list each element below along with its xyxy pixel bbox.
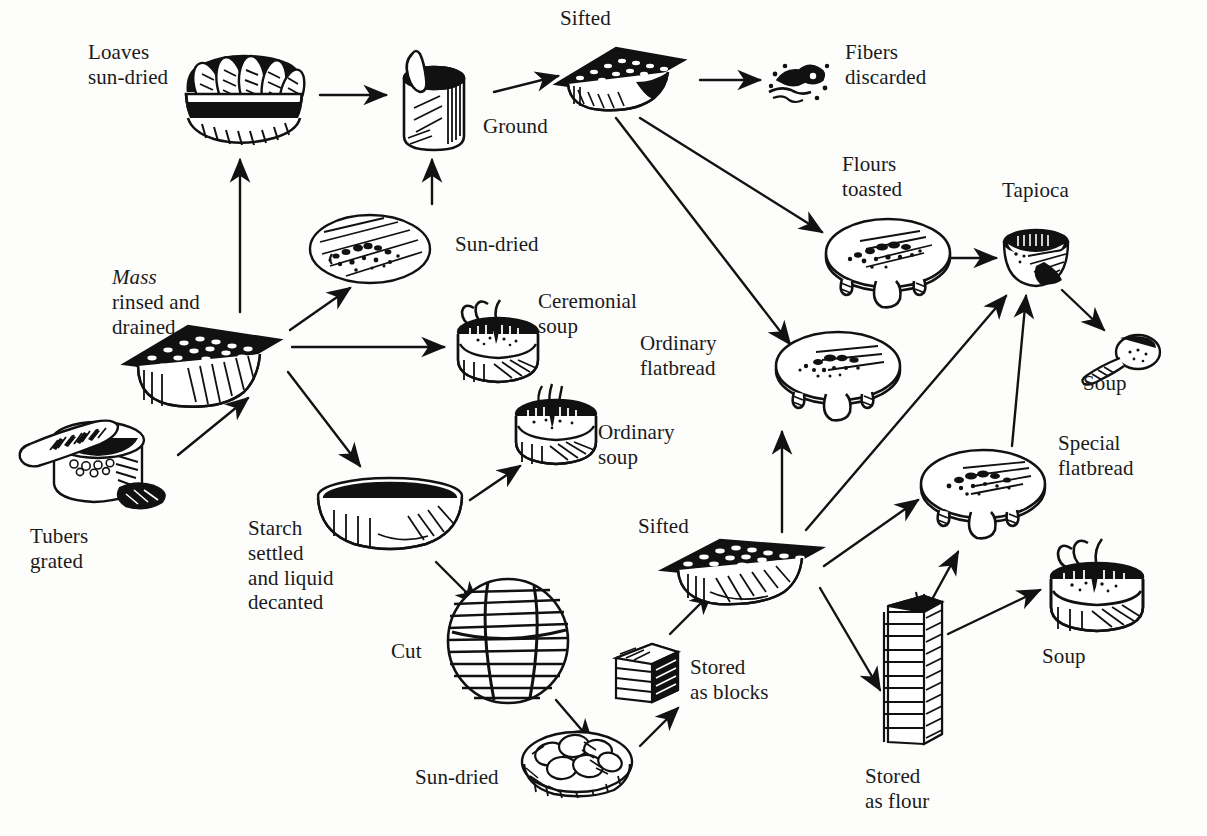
label-flours-toasted: Flours toasted <box>842 152 902 202</box>
label-stored-as-flour: Stored as flour <box>865 764 929 814</box>
label-tapioca: Tapioca <box>1002 178 1069 203</box>
ordinary-soup-pot-icon <box>508 384 604 474</box>
label-fibers-discarded: Fibers discarded <box>845 40 926 90</box>
basket-of-loaves-icon <box>178 30 308 148</box>
ceremonial-soup-pot-icon <box>450 298 546 392</box>
mortar-and-pestle-icon <box>390 48 482 156</box>
discarded-fibers-icon <box>765 52 835 110</box>
arrow-mortar-pestle-to-sifter-top <box>494 76 558 92</box>
tapioca-bowl-icon <box>1000 222 1072 292</box>
soup-pot-icon <box>1042 535 1152 639</box>
starch-settling-basin-icon <box>312 474 468 560</box>
label-special-flatbread: Special flatbread <box>1058 431 1134 481</box>
label-emphasis: Mass <box>112 265 157 289</box>
cut-starch-ball-icon <box>444 576 572 706</box>
label-tubers-grated: Tubers grated <box>30 524 88 574</box>
arrow-sifter-lower-to-special-griddle <box>824 500 918 566</box>
label-sun-dried-lower: Sun-dried <box>415 765 499 790</box>
arrow-flour-column-to-soup-pot-right <box>948 590 1040 634</box>
stored-blocks-icon <box>610 642 684 706</box>
label-stored-as-blocks: Stored as blocks <box>690 655 768 705</box>
sifter-tray-icon <box>658 530 826 610</box>
special-flatbread-griddle-icon <box>915 448 1051 544</box>
arrow-sifter-lower-to-flour-column <box>820 588 880 690</box>
label-mass-rinsed: Mass rinsed and drained <box>112 265 200 339</box>
label-soup-pot: Soup <box>1042 644 1086 669</box>
arrow-sifter-top-to-toasting-griddle <box>640 118 822 232</box>
label-loaves-sun-dried: Loaves sun-dried <box>88 40 168 90</box>
label-soup-spoon: Soup <box>1083 371 1127 396</box>
ordinary-flatbread-griddle-icon <box>770 330 906 426</box>
label-sifted-lower: Sifted <box>638 514 689 539</box>
label-ground: Ground <box>483 114 548 139</box>
stored-flour-column-icon <box>872 592 950 756</box>
arrow-special-griddle-to-tapioca-bowl <box>1012 296 1026 446</box>
toasting-griddle-icon <box>820 215 956 311</box>
sun-dried-cakes-basket-icon <box>518 724 636 798</box>
arrow-mass-press-to-mass-cake-sun <box>290 288 350 330</box>
label-sifted-top: Sifted <box>560 6 611 31</box>
label-ordinary-soup: Ordinary soup <box>598 420 675 470</box>
arrow-sifter-top-to-ordinary-griddle <box>616 118 790 344</box>
label-ceremonial-soup: Ceremonial soup <box>538 289 637 339</box>
label-starch-settled: Starch settled and liquid decanted <box>248 516 334 615</box>
arrow-mass-press-to-starch-basin <box>288 372 360 466</box>
label-cut: Cut <box>391 639 422 664</box>
grating-board-and-tubers-icon <box>14 410 182 522</box>
label-sun-dried-upper: Sun-dried <box>455 232 539 257</box>
arrow-sun-dried-cakes-to-block-stack <box>640 708 678 746</box>
label-ordinary-flatbread: Ordinary flatbread <box>640 331 717 381</box>
sifter-tray-icon <box>550 42 690 114</box>
drying-mass-cake-icon <box>306 210 434 288</box>
arrow-tapioca-bowl-to-soup-spoon-icon <box>1062 290 1104 330</box>
diagram-canvas: Loaves sun-driedSiftedGroundFibers disca… <box>0 0 1207 836</box>
